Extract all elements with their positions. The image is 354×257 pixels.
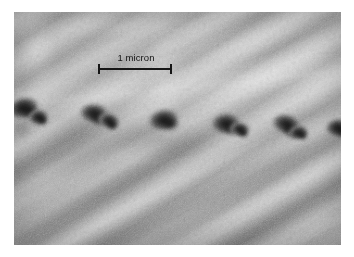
scale-bar: 1 micron: [97, 52, 175, 76]
micrograph-image: [14, 12, 341, 245]
edge-vignette: [14, 12, 341, 245]
scale-bar-cap-right: [170, 64, 172, 74]
scale-bar-label: 1 micron: [97, 52, 175, 63]
scale-bar-cap-left: [98, 64, 100, 74]
micrograph-figure: 1 micron: [0, 0, 354, 257]
scale-bar-line: [98, 68, 172, 70]
